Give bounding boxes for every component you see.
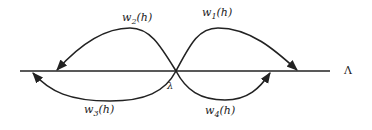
- label-w2: w2(h): [122, 11, 152, 26]
- curve-w4: [176, 71, 270, 100]
- label-lambda: λ: [167, 80, 173, 91]
- curve-w2: [57, 28, 176, 71]
- curve-w3: [33, 71, 176, 101]
- label-w1: w1(h): [202, 6, 232, 21]
- label-w4: w4(h): [205, 104, 235, 119]
- contour-diagram: [0, 0, 372, 130]
- curve-w1: [176, 28, 297, 71]
- label-Lambda: Λ: [344, 64, 352, 77]
- label-w3: w3(h): [84, 103, 114, 118]
